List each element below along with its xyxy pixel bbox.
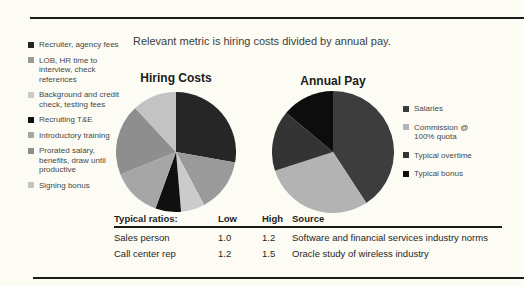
annual-pay-legend: Salaries Commission @ 100% quota Typical… — [403, 104, 478, 188]
typical-ratios-table: Typical ratios: Low High Source Sales pe… — [114, 213, 502, 264]
hiring-costs-pie — [116, 92, 236, 212]
annual-pay-pie — [272, 91, 394, 213]
table-row: Call center rep 1.2 1.5 Oracle study of … — [114, 248, 502, 259]
header-label: Typical ratios: — [114, 213, 218, 224]
legend-item: Salaries — [403, 104, 478, 114]
legend-item: Background and credit check, testing fee… — [28, 90, 122, 109]
hiring-costs-legend: Recruiter, agency fees LOB, HR time to i… — [28, 40, 122, 196]
table-header-row: Typical ratios: Low High Source — [114, 213, 502, 228]
legend-item: Typical overtime — [403, 151, 478, 161]
header-low: Low — [218, 213, 262, 224]
row-label: Sales person — [114, 232, 218, 243]
legend-label: Prorated salary, benefits, draw until pr… — [39, 146, 122, 175]
legend-swatch — [403, 152, 409, 158]
hiring-costs-title: Hiring Costs — [116, 71, 236, 85]
row-source: Oracle study of wireless industry — [292, 248, 502, 259]
legend-swatch — [28, 42, 34, 48]
legend-label: Salaries — [414, 104, 443, 114]
legend-item: Introductory training — [28, 131, 122, 141]
legend-label: Recruiter, agency fees — [39, 40, 119, 50]
header-high: High — [262, 213, 292, 224]
legend-item: Recruiting T&E — [28, 115, 122, 125]
legend-swatch — [28, 148, 34, 154]
row-low: 1.0 — [218, 232, 262, 243]
legend-label: Background and credit check, testing fee… — [39, 90, 122, 109]
row-high: 1.2 — [262, 232, 292, 243]
legend-item: LOB, HR time to interview, check referen… — [28, 56, 122, 85]
slide: Relevant metric is hiring costs divided … — [0, 0, 524, 286]
legend-label: LOB, HR time to interview, check referen… — [39, 56, 122, 85]
legend-label: Introductory training — [39, 131, 110, 141]
legend-swatch — [28, 132, 34, 138]
legend-item: Typical bonus — [403, 169, 478, 179]
annual-pay-title: Annual Pay — [273, 74, 393, 88]
legend-swatch — [403, 171, 409, 177]
legend-label: Commission @ 100% quota — [414, 123, 478, 142]
table-body: Sales person 1.0 1.2 Software and financ… — [114, 232, 502, 259]
legend-swatch — [403, 124, 409, 130]
legend-item: Recruiter, agency fees — [28, 40, 122, 50]
legend-label: Recruiting T&E — [39, 115, 93, 125]
legend-swatch — [28, 57, 34, 63]
bottom-rule — [33, 277, 524, 279]
legend-item: Signing bonus — [28, 181, 122, 191]
legend-swatch — [403, 106, 409, 112]
legend-swatch — [28, 182, 34, 188]
legend-item: Commission @ 100% quota — [403, 123, 478, 142]
row-source: Software and financial services industry… — [292, 232, 502, 243]
pie-slice — [176, 92, 236, 163]
table-row: Sales person 1.0 1.2 Software and financ… — [114, 232, 502, 243]
top-rule — [30, 17, 524, 19]
legend-label: Typical bonus — [414, 169, 463, 179]
legend-label: Typical overtime — [414, 151, 472, 161]
row-label: Call center rep — [114, 248, 218, 259]
row-high: 1.5 — [262, 248, 292, 259]
page-title: Relevant metric is hiring costs divided … — [133, 35, 391, 47]
legend-item: Prorated salary, benefits, draw until pr… — [28, 146, 122, 175]
legend-swatch — [28, 117, 34, 123]
legend-label: Signing bonus — [39, 181, 90, 191]
row-low: 1.2 — [218, 248, 262, 259]
legend-swatch — [28, 92, 34, 98]
header-source: Source — [292, 213, 502, 224]
